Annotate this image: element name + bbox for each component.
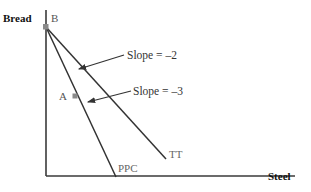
- slope-3-leader-line: [88, 91, 131, 102]
- slope-2-annotation-label: Slope = –2: [127, 49, 177, 62]
- x-axis-label: Steel: [268, 170, 291, 182]
- point-a-marker: [73, 94, 78, 99]
- y-axis-label: Bread: [3, 12, 32, 24]
- slope-2-leader-line: [79, 55, 124, 69]
- point-a-label: A: [59, 90, 67, 102]
- slope-3-annotation-label: Slope = –3: [133, 85, 183, 98]
- tt-curve-label: TT: [169, 148, 183, 160]
- point-b-label: B: [51, 12, 58, 24]
- ppc-line: [46, 27, 116, 177]
- ppc-diagram-figure: Bread Steel B A PPC TT Slope = –2 Slope …: [0, 0, 311, 192]
- ppc-chart-canvas: Bread Steel B A PPC TT Slope = –2 Slope …: [0, 0, 311, 192]
- ppc-curve-label: PPC: [118, 162, 138, 174]
- point-b-marker: [43, 24, 49, 30]
